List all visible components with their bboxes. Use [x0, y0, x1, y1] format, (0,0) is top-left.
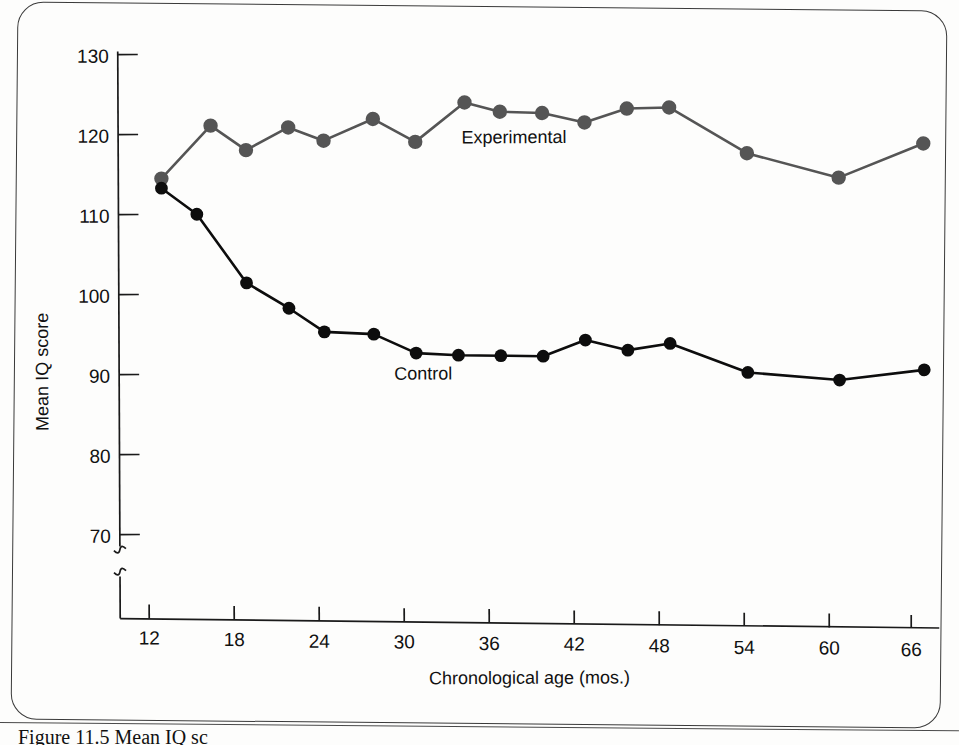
data-point-experimental: [316, 133, 330, 147]
figure-page: 130 120 110 100 90 80 70 Mean IQ score: [0, 0, 959, 745]
x-tick-label: 54: [734, 637, 756, 658]
data-point-control: [621, 344, 634, 357]
data-point-experimental: [281, 120, 295, 134]
figure-caption: Figure 11.5 Mean IQ sc: [18, 726, 208, 745]
data-point-control: [537, 350, 550, 363]
data-point-control: [918, 363, 931, 376]
y-axis-break-icon: [114, 546, 126, 553]
x-tick-label: 12: [139, 627, 160, 648]
x-tick-label: 42: [564, 634, 585, 655]
data-point-control: [741, 366, 754, 379]
x-tick-label: 60: [819, 637, 840, 658]
data-point-control: [833, 374, 846, 387]
data-point-experimental: [916, 136, 930, 150]
data-point-control: [155, 182, 168, 195]
y-tick-label: 70: [90, 526, 111, 547]
y-axis-break-icon-2: [114, 568, 126, 575]
data-point-experimental: [493, 104, 507, 118]
y-axis-title: Mean IQ score: [32, 313, 53, 431]
data-point-control: [240, 276, 253, 289]
y-axis: 130 120 110 100 90 80 70 Mean IQ score: [31, 45, 140, 618]
data-point-control: [318, 325, 331, 338]
data-point-experimental: [620, 101, 634, 115]
series-label-experimental: Experimental: [461, 127, 566, 147]
data-point-experimental: [577, 115, 591, 129]
data-point-control: [579, 334, 592, 347]
x-tick-label: 24: [309, 631, 331, 652]
data-point-experimental: [662, 100, 676, 114]
data-point-experimental: [535, 106, 549, 120]
chart-figure: 130 120 110 100 90 80 70 Mean IQ score: [0, 0, 959, 745]
data-point-experimental: [408, 135, 422, 149]
data-point-experimental: [239, 143, 253, 157]
x-tick-label: 66: [901, 639, 922, 660]
x-tick-label: 30: [394, 631, 415, 652]
data-point-control: [283, 302, 296, 315]
x-axis: 12 18 24 30 36 42 48 54 60 66 Chronologi…: [120, 601, 939, 690]
iq-line-chart: 130 120 110 100 90 80 70 Mean IQ score: [0, 0, 959, 745]
y-tick-label: 110: [79, 206, 109, 227]
data-point-experimental: [831, 170, 845, 184]
data-point-control: [410, 347, 423, 360]
x-axis-title: Chronological age (mos.): [429, 667, 630, 688]
series-label-control: Control: [394, 363, 452, 383]
y-tick-label: 90: [89, 366, 110, 387]
data-point-control: [452, 349, 465, 362]
data-point-control: [367, 328, 380, 341]
data-point-experimental: [203, 118, 217, 132]
x-tick-label: 18: [224, 629, 245, 650]
data-point-experimental: [740, 146, 754, 160]
x-tick-label: 36: [479, 633, 500, 654]
y-tick-label: 130: [77, 46, 109, 67]
x-tick-label: 48: [649, 635, 670, 656]
data-point-control: [664, 337, 677, 350]
y-tick-label: 80: [89, 446, 110, 467]
y-tick-label: 100: [78, 286, 110, 307]
y-tick-label: 120: [77, 126, 109, 147]
data-point-control: [190, 208, 203, 221]
data-point-experimental: [457, 95, 471, 109]
data-point-experimental: [366, 112, 380, 126]
data-point-control: [494, 349, 507, 362]
